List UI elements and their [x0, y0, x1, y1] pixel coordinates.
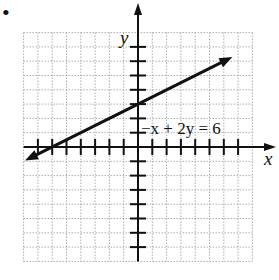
line-arrow-left-icon	[25, 150, 39, 160]
y-axis-arrow-icon	[134, 3, 142, 15]
coordinate-graph: • y x −x + 2y = 6	[0, 0, 279, 280]
equation-label: −x + 2y = 6	[141, 119, 221, 138]
equation-line	[25, 57, 232, 161]
bullet-marker: •	[2, 0, 10, 25]
x-axis-label: x	[263, 148, 273, 169]
line-arrow-right-icon	[219, 57, 233, 67]
y-axis-label: y	[118, 27, 129, 48]
